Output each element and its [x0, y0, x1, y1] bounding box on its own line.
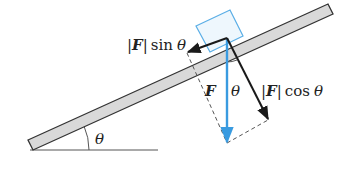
cos-component-label: |F|cosθ — [261, 82, 323, 100]
sin-component-label: |F|sinθ — [127, 36, 186, 54]
incline-angle-label: θ — [95, 130, 104, 148]
dashed-line-bottom — [227, 120, 268, 143]
force-label: F — [204, 82, 217, 100]
inclined-ramp — [28, 4, 333, 150]
inclined-plane-diagram: θ |F|sinθ F θ |F|cosθ — [0, 0, 351, 169]
force-angle-label: θ — [231, 82, 240, 100]
incline-angle-arc — [84, 126, 89, 150]
